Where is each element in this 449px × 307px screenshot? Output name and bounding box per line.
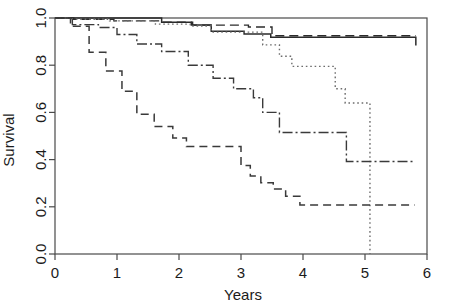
plot-frame xyxy=(55,18,427,254)
x-axis-title: Years xyxy=(224,286,262,303)
x-tick-label: 6 xyxy=(423,264,431,281)
x-tick-label: 3 xyxy=(237,264,245,281)
curve-dashed-bottom xyxy=(55,18,415,205)
y-tick-label: 0.0 xyxy=(32,244,49,265)
x-tick-label: 0 xyxy=(51,264,59,281)
curve-dotted xyxy=(55,18,370,254)
series-layer xyxy=(55,18,416,254)
curve-dashdot xyxy=(55,18,413,161)
y-axis-title: Survival xyxy=(0,113,17,166)
survival-chart: 01234560.00.20.40.60.81.0 Years Survival xyxy=(0,0,449,307)
chart-canvas: 01234560.00.20.40.60.81.0 Years Survival xyxy=(0,0,449,307)
y-tick-label: 1.0 xyxy=(32,8,49,29)
tick-labels: 01234560.00.20.40.60.81.0 xyxy=(32,8,431,281)
x-tick-label: 2 xyxy=(175,264,183,281)
y-tick-label: 0.6 xyxy=(32,102,49,123)
y-tick-label: 0.2 xyxy=(32,196,49,217)
x-tick-label: 1 xyxy=(113,264,121,281)
y-tick-label: 0.4 xyxy=(32,149,49,170)
x-tick-label: 4 xyxy=(299,264,307,281)
x-tick-label: 5 xyxy=(361,264,369,281)
y-tick-label: 0.8 xyxy=(32,55,49,76)
